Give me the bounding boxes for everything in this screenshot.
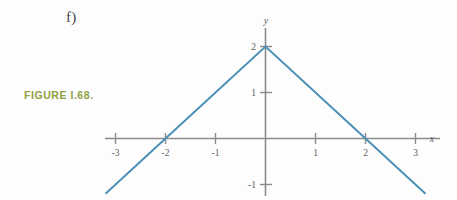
coordinate-plot: -3 -2 -1 1 2 3 1 2 -1 x y — [0, 0, 457, 200]
x-ticklabel--2: -2 — [162, 148, 170, 158]
x-axis-label: x — [429, 133, 435, 144]
y-ticklabel--1: -1 — [248, 180, 256, 190]
x-ticklabel--1: -1 — [212, 148, 220, 158]
figure-container: f) FIGURE I.68. -3 -2 -1 1 2 3 1 2 -1 x … — [0, 0, 457, 200]
y-ticklabel-1: 1 — [251, 88, 256, 98]
x-ticklabel-1: 1 — [313, 148, 318, 158]
x-ticklabel-3: 3 — [413, 148, 418, 158]
y-axis-label: y — [263, 15, 269, 26]
y-ticklabel-2: 2 — [251, 42, 256, 52]
x-ticklabel--3: -3 — [112, 148, 120, 158]
x-ticklabel-2: 2 — [363, 148, 368, 158]
